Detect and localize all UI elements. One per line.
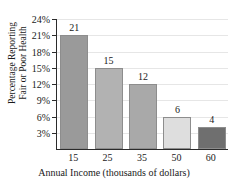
y-axis-tick-label: 18%	[32, 46, 50, 57]
bar-value-label: 21	[60, 22, 88, 33]
x-axis-line	[56, 149, 228, 150]
bar-series: 21151264	[57, 19, 228, 149]
bar-value-label: 15	[95, 55, 123, 66]
bar-group: 12	[129, 19, 157, 149]
y-axis-tick-label: 3%	[37, 127, 50, 138]
x-axis-title: Annual Income (thousands of dollars)	[0, 167, 228, 178]
plot-area: 3%6%9%12%15%18%21%24% 21151264	[56, 19, 228, 149]
bar-chart: Percentage Reporting Fair or Poor Health…	[0, 0, 228, 184]
bar	[129, 84, 157, 149]
y-axis-title: Percentage Reporting Fair or Poor Health	[7, 0, 29, 129]
bar	[60, 35, 88, 149]
y-axis-tick-label: 12%	[32, 79, 50, 90]
bar-group: 6	[163, 19, 191, 149]
y-axis-tick-label: 24%	[32, 14, 50, 25]
y-axis-title-line-2: Fair or Poor Health	[18, 0, 29, 129]
y-axis-tick-label: 21%	[32, 30, 50, 41]
x-axis-tick-label: 60	[191, 152, 228, 163]
y-axis-tick-label: 9%	[37, 95, 50, 106]
y-axis-tick-label: 6%	[37, 111, 50, 122]
bar-value-label: 4	[198, 114, 226, 125]
bar-value-label: 12	[129, 71, 157, 82]
bar-group: 21	[60, 19, 88, 149]
bar-group: 4	[198, 19, 226, 149]
bar	[163, 117, 191, 150]
bar-group: 15	[95, 19, 123, 149]
bar-value-label: 6	[163, 104, 191, 115]
bar	[95, 68, 123, 149]
y-axis-title-line-1: Percentage Reporting	[7, 0, 18, 129]
bar	[198, 127, 226, 149]
y-axis-tick-label: 15%	[32, 62, 50, 73]
